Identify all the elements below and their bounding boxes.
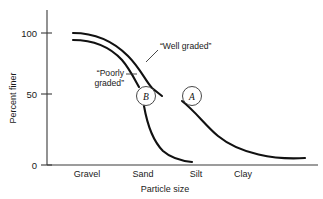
y-tick-label-0: 0 bbox=[32, 160, 37, 171]
annotation-poorly-graded-line1: “Poorly bbox=[97, 68, 125, 78]
x-axis-title: Particle size bbox=[141, 184, 190, 194]
x-category-label-gravel: Gravel bbox=[74, 169, 101, 179]
curve-poorly-graded-b bbox=[73, 40, 192, 162]
chart-canvas: 100 50 0 Percent finer Gravel Sand Silt … bbox=[0, 0, 323, 199]
well-graded-leader-line bbox=[146, 50, 158, 62]
y-axis-title: Percent finer bbox=[8, 72, 18, 123]
annotation-well-graded: “Well graded” bbox=[160, 41, 212, 51]
marker-label-b: B bbox=[143, 92, 149, 102]
x-category-label-silt: Silt bbox=[190, 169, 203, 179]
particle-size-distribution-figure: 100 50 0 Percent finer Gravel Sand Silt … bbox=[0, 0, 323, 199]
y-tick-label-100: 100 bbox=[21, 28, 37, 39]
y-tick-label-50: 50 bbox=[26, 89, 37, 100]
x-category-label-sand: Sand bbox=[132, 169, 153, 179]
annotation-poorly-graded-line2: graded” bbox=[94, 78, 124, 88]
x-category-label-clay: Clay bbox=[234, 169, 253, 179]
marker-label-a: A bbox=[188, 92, 195, 102]
